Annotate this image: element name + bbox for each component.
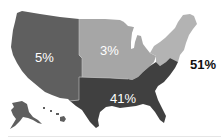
map-graphic (0, 0, 221, 139)
region-label-midwest: 3% (100, 44, 119, 57)
region-west-hawaii[interactable] (43, 107, 66, 122)
us-region-map: 5% 3% 51% 41% (0, 0, 221, 139)
region-west-alaska[interactable] (10, 101, 42, 129)
region-label-west: 5% (35, 51, 54, 64)
region-label-south: 41% (110, 92, 136, 105)
region-label-northeast: 51% (190, 58, 216, 71)
baseline-rule (8, 136, 221, 137)
